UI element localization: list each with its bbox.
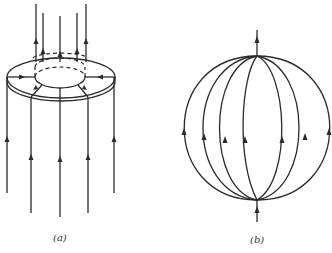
panel-a-ring-diagram (5, 4, 117, 217)
bottom-arrow-icon (255, 206, 260, 213)
panel-b-sphere-diagram (182, 30, 332, 222)
diagram-canvas (0, 0, 332, 253)
top-arrow-icon (255, 36, 260, 43)
caption-b: (b) (250, 234, 264, 245)
caption-a: (a) (53, 232, 67, 243)
meridian-field-lines (184, 56, 330, 200)
